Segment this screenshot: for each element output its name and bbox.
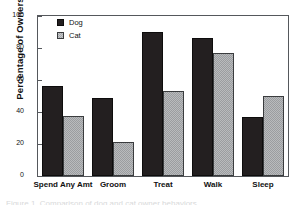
y-axis-tick: 100 [26,16,37,17]
x-axis-label: Spend Any Amt [34,180,93,189]
y-axis-tick-label: 20 [16,139,24,146]
legend-item-dog: Dog [57,17,103,28]
y-axis-tick-label: 40 [16,107,24,114]
bar-cat [263,96,284,176]
bar-dog [42,86,63,176]
cat-swatch-icon [57,32,64,39]
bar-cat [213,53,234,176]
y-axis-tick: 60 [26,80,37,81]
legend-item-cat: Cat [57,30,103,41]
bar-dog [142,32,163,176]
bar-dog [242,117,263,176]
bar-dog [192,38,213,176]
x-axis-tick-labels: Spend Any AmtGroomTreatWalkSleep [37,180,289,192]
y-axis-tick-label: 100 [12,11,24,18]
y-axis-tick: 80 [26,48,37,49]
y-axis-tick-mark [37,176,42,177]
legend-label-dog: Dog [69,18,83,27]
chart-legend: Dog Cat [57,17,103,43]
y-axis-title: Percentage of Owners [14,0,25,124]
y-axis-tick: 40 [26,112,37,113]
bar-dog [92,98,113,176]
bar-group [142,16,184,176]
x-axis-label: Walk [204,180,222,189]
y-axis-tick-label: 60 [16,75,24,82]
bar-cat [163,91,184,176]
x-axis-label: Sleep [252,180,273,189]
bar-group [242,16,284,176]
y-axis-tick: 20 [26,144,37,145]
x-axis-label: Treat [153,180,172,189]
y-axis-tick-label: 80 [16,43,24,50]
dog-swatch-icon [57,19,64,26]
y-axis-tick-label: 0 [20,171,24,178]
bar-group [192,16,234,176]
bar-cat [63,116,84,176]
legend-label-cat: Cat [69,31,81,40]
bar-chart-figure: Percentage of Owners 020406080100 Spend … [0,0,301,205]
x-axis-label: Groom [100,180,126,189]
y-axis-tick: 0 [26,176,37,177]
bar-cat [113,142,134,176]
figure-caption: Figure 1. Comparison of dog and cat owne… [6,198,295,205]
